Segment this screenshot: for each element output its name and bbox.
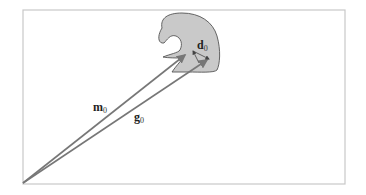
- vector-diagram: d0 m0 g0: [0, 0, 366, 195]
- vector-g0: [23, 60, 207, 183]
- label-m0: m0: [93, 100, 107, 115]
- object-shape: [159, 13, 220, 72]
- vector-m0: [23, 55, 185, 183]
- label-g0: g0: [134, 110, 144, 125]
